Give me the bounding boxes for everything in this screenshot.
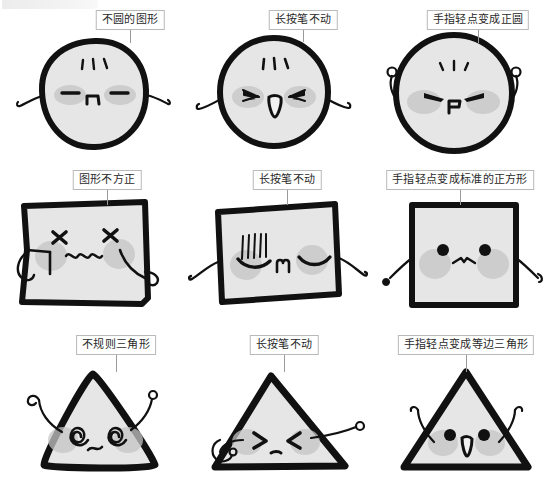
label-circle-pressing: 长按笔不动 [269,10,338,30]
label-square-perfect: 手指轻点变成标准的正方形 [386,170,534,190]
label-circle-irregular: 不圆的图形 [96,10,165,30]
leader-line [460,189,461,205]
leader-line [478,29,479,43]
leader-line [287,189,288,205]
eye-left-dot [444,429,456,441]
label-triangle-equilateral: 手指轻点变成等边三角形 [398,335,534,355]
label-square-irregular: 图形不方正 [73,170,142,190]
label-triangle-irregular: 不规则三角形 [76,335,156,355]
mouth-open [462,437,472,456]
leader-line [130,29,131,43]
leader-line [107,189,108,205]
leader-line [303,29,304,42]
leader-line [284,354,285,372]
label-triangle-pressing: 长按笔不动 [250,335,319,355]
leader-line [466,354,467,372]
label-square-pressing: 长按笔不动 [253,170,322,190]
illustration-stage: 不圆的图形 长按笔不动 [0,0,549,481]
eye-right-dot [478,429,490,441]
figure-triangle-equilateral [0,0,549,481]
label-circle-perfect: 手指轻点变成正圆 [427,10,529,30]
leader-line [116,354,117,372]
